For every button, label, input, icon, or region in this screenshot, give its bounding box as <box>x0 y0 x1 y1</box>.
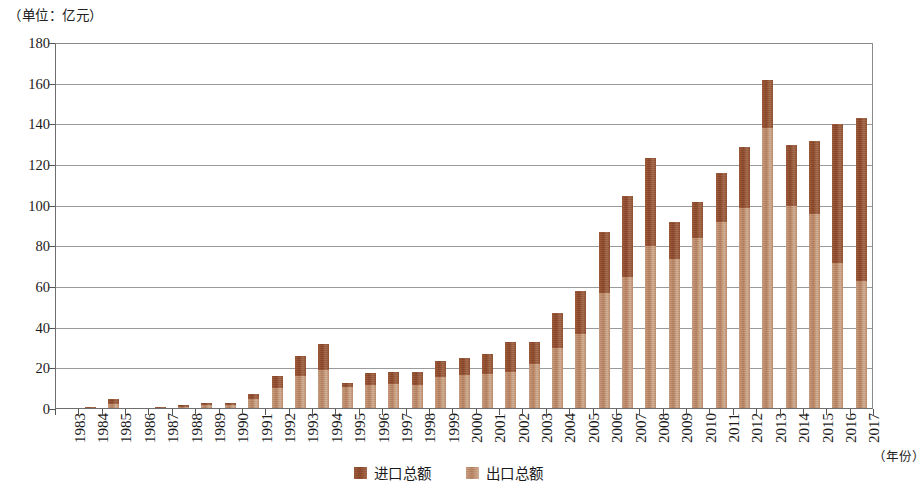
bar-group[interactable] <box>412 372 423 409</box>
bar-segment-import[interactable] <box>739 147 750 208</box>
bar-group[interactable] <box>272 376 283 409</box>
bar-group[interactable] <box>505 342 516 409</box>
bar-group[interactable] <box>832 124 843 409</box>
x-tick-mark <box>452 409 453 415</box>
bar-segment-export[interactable] <box>435 377 446 409</box>
bar-group[interactable] <box>552 313 563 409</box>
legend-label: 进口总额 <box>374 462 432 482</box>
x-tick-label: 2006 <box>610 413 625 443</box>
bar-segment-export[interactable] <box>318 370 329 409</box>
bar-segment-export[interactable] <box>388 384 399 409</box>
bar-segment-export[interactable] <box>552 348 563 409</box>
bar-segment-export[interactable] <box>692 238 703 409</box>
bar-segment-export[interactable] <box>599 293 610 409</box>
bar-group[interactable] <box>762 80 773 409</box>
bar-group[interactable] <box>482 354 493 409</box>
bar-group[interactable] <box>248 394 259 409</box>
bar-segment-export[interactable] <box>505 372 516 409</box>
bar-group[interactable] <box>739 147 750 409</box>
bar-segment-export[interactable] <box>365 385 376 409</box>
x-tick-mark <box>499 409 500 415</box>
bar-segment-export[interactable] <box>342 387 353 409</box>
bar-group[interactable] <box>856 118 867 409</box>
bar-segment-import[interactable] <box>716 173 727 222</box>
bar-segment-import[interactable] <box>832 124 843 262</box>
bar-segment-import[interactable] <box>272 376 283 387</box>
bar-segment-import[interactable] <box>318 344 329 370</box>
bar-group[interactable] <box>365 373 376 409</box>
bar-segment-export[interactable] <box>786 206 797 409</box>
bar-segment-export[interactable] <box>739 208 750 409</box>
bar-segment-export[interactable] <box>272 388 283 409</box>
bar-segment-import[interactable] <box>575 291 586 334</box>
bar-segment-export[interactable] <box>412 385 423 409</box>
x-tick-label: 2002 <box>517 413 532 443</box>
bar-group[interactable] <box>575 291 586 409</box>
x-tick-label: 1989 <box>213 413 228 443</box>
bar-group[interactable] <box>599 232 610 409</box>
bar-segment-import[interactable] <box>529 342 540 364</box>
bar-segment-import[interactable] <box>645 158 656 246</box>
legend-item-export[interactable]: 出口总额 <box>466 462 544 482</box>
bar-segment-import[interactable] <box>365 373 376 384</box>
bar-group[interactable] <box>295 356 306 409</box>
bar-segment-import[interactable] <box>692 202 703 239</box>
bar-segment-import[interactable] <box>809 141 820 214</box>
bar-group[interactable] <box>318 344 329 409</box>
bar-segment-export[interactable] <box>459 375 470 409</box>
bar-segment-import[interactable] <box>856 118 867 281</box>
bar-segment-export[interactable] <box>645 246 656 409</box>
bar-group[interactable] <box>809 141 820 409</box>
bar-group[interactable] <box>459 358 470 409</box>
x-tick-mark <box>429 409 430 415</box>
bar-segment-import[interactable] <box>669 222 680 259</box>
plot-area <box>55 43 873 409</box>
bar-segment-import[interactable] <box>786 145 797 206</box>
bar-group[interactable] <box>108 399 119 409</box>
bar-segment-import[interactable] <box>295 356 306 376</box>
x-tick-mark <box>569 409 570 415</box>
x-tick-mark <box>289 409 290 415</box>
bar-segment-export[interactable] <box>529 364 540 409</box>
y-tick-label: 60 <box>4 280 50 295</box>
bar-group[interactable] <box>342 383 353 409</box>
bar-group[interactable] <box>692 202 703 409</box>
bar-group[interactable] <box>435 361 446 409</box>
bar-segment-export[interactable] <box>716 222 727 409</box>
bar-segment-import[interactable] <box>435 361 446 377</box>
bar-segment-import[interactable] <box>388 372 399 383</box>
bar-group[interactable] <box>622 196 633 409</box>
bar-segment-export[interactable] <box>856 281 867 409</box>
bar-segment-export[interactable] <box>248 399 259 409</box>
bar-segment-export[interactable] <box>762 128 773 409</box>
bar-segment-import[interactable] <box>599 232 610 293</box>
bar-segment-export[interactable] <box>482 374 493 409</box>
legend-item-import[interactable]: 进口总额 <box>354 462 432 482</box>
bar-segment-import[interactable] <box>482 354 493 374</box>
bar-group[interactable] <box>786 145 797 409</box>
bar-group[interactable] <box>388 372 399 409</box>
bar-segment-export[interactable] <box>832 263 843 409</box>
bar-segment-export[interactable] <box>575 334 586 409</box>
x-tick-mark <box>55 409 56 415</box>
bar-segment-import[interactable] <box>412 372 423 384</box>
bar-segment-import[interactable] <box>622 196 633 277</box>
chart-legend: 进口总额出口总额 <box>0 462 897 482</box>
bar-segment-import[interactable] <box>505 342 516 373</box>
y-tick-label: 160 <box>4 76 50 91</box>
bar-group[interactable] <box>645 158 656 409</box>
bar-segment-import[interactable] <box>459 358 470 375</box>
bar-segment-export[interactable] <box>809 214 820 409</box>
bar-group[interactable] <box>529 342 540 409</box>
bar-group[interactable] <box>669 222 680 409</box>
bar-segment-import[interactable] <box>552 313 563 348</box>
bar-group[interactable] <box>716 173 727 409</box>
bar-segment-import[interactable] <box>762 80 773 129</box>
x-tick-label: 1999 <box>447 413 462 443</box>
bar-segment-export[interactable] <box>669 259 680 409</box>
legend-swatch-import <box>354 467 367 479</box>
x-tick-mark <box>780 409 781 415</box>
bar-segment-export[interactable] <box>295 376 306 409</box>
bar-segment-export[interactable] <box>622 277 633 409</box>
